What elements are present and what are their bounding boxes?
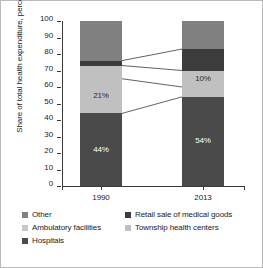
y-tick-label: 100 [40,15,53,23]
x-axis-end-tick-1 [244,186,245,190]
y-axis-title: Share of total health expenditure, perce… [15,0,24,137]
legend-item-retail-sale-of-medical-goods[interactable]: Retail sale of medical goods [125,210,254,219]
y-tick-mark [57,137,61,138]
legend-swatch [22,225,28,231]
bar-segment-ambulatory-facilities[interactable] [182,87,224,97]
legend-label: Ambulatory facilities [32,223,101,232]
bar-segment-hospitals[interactable]: 54% [182,97,224,186]
bar-segment-ambulatory-facilities[interactable]: 21% [80,79,122,114]
connector-line-3 [122,49,182,61]
y-tick-label: 80 [44,48,53,56]
y-tick-mark [57,21,61,22]
y-tick-mark [57,186,61,187]
legend-row: OtherRetail sale of medical goods [22,210,254,221]
segment-value-label: 21% [93,92,109,100]
bar-segment-other[interactable] [80,21,122,61]
segment-value-label: 44% [93,146,109,154]
legend-label: Other [32,210,52,219]
plot-area: 44%21% 54%10% [62,21,244,186]
y-tick-label: 0 [49,180,53,188]
legend-label: Township health centers [135,223,219,232]
chart-figure: Share of total health expenditure, perce… [0,0,263,268]
y-tick-label: 40 [44,114,53,122]
legend-item-township-health-centers[interactable]: Township health centers [125,223,254,232]
y-tick-mark [57,170,61,171]
legend-label: Retail sale of medical goods [135,210,232,219]
x-axis-end-tick-0 [62,186,63,190]
y-tick-label: 70 [44,65,53,73]
y-tick-mark [57,54,61,55]
y-tick-mark [57,120,61,121]
y-tick-label: 90 [44,32,53,40]
x-axis-label-1990: 1990 [71,193,131,202]
y-tick-mark [57,87,61,88]
y-tick-label: 30 [44,131,53,139]
x-axis-label-2013: 2013 [173,193,233,202]
legend-swatch [125,212,131,218]
legend-item-hospitals[interactable]: Hospitals [22,236,125,245]
bar-segment-hospitals[interactable]: 44% [80,113,122,186]
x-axis-line [62,186,245,187]
bar-segment-township-health-centers[interactable] [80,66,122,79]
legend-item-other[interactable]: Other [22,210,125,219]
legend-item-ambulatory-facilities[interactable]: Ambulatory facilities [22,223,125,232]
y-tick-label: 60 [44,81,53,89]
y-tick-mark [57,153,61,154]
legend-swatch [22,238,28,244]
connector-line-2 [122,66,182,71]
x-tick-mark [101,186,102,190]
bar-segment-retail-sale-of-medical-goods[interactable] [80,61,122,66]
segment-value-label: 54% [195,137,211,145]
legend-row: Ambulatory facilitiesTownship health cen… [22,223,254,234]
bar-segment-other[interactable] [182,21,224,49]
legend-row: Hospitals [22,236,254,247]
y-tick-mark [57,71,61,72]
x-tick-mark [203,186,204,190]
connector-line-0 [122,97,182,114]
y-tick-mark [57,104,61,105]
y-tick-mark [57,38,61,39]
legend-swatch [22,212,28,218]
legend: OtherRetail sale of medical goodsAmbulat… [22,210,254,249]
legend-label: Hospitals [32,236,64,245]
legend-swatch [125,225,131,231]
bar-2013[interactable]: 54%10% [182,21,224,186]
connector-line-1 [122,79,182,87]
y-tick-label: 20 [44,147,53,155]
y-tick-label: 50 [44,98,53,106]
bar-segment-retail-sale-of-medical-goods[interactable] [182,49,224,70]
bar-segment-township-health-centers[interactable]: 10% [182,71,224,88]
y-tick-label: 10 [44,164,53,172]
segment-value-label: 10% [195,75,211,83]
bar-1990[interactable]: 44%21% [80,21,122,186]
